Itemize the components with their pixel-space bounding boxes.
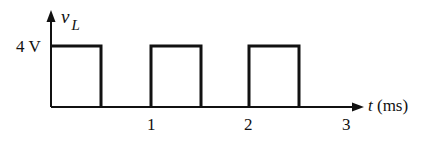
level-label-4v: 4 V	[16, 38, 41, 55]
y-symbol: v	[61, 6, 69, 27]
x-axis-arrow-icon	[352, 103, 364, 112]
x-unit: (ms)	[377, 96, 408, 115]
x-axis-label: t (ms)	[368, 97, 408, 114]
pulse-2	[151, 46, 201, 107]
y-subscript: L	[71, 17, 79, 33]
y-axis-label: vL	[61, 7, 78, 26]
y-axis-arrow-icon	[47, 10, 56, 22]
square-wave	[51, 46, 299, 107]
x-tick-2: 2	[244, 116, 253, 133]
pulse-1	[51, 46, 101, 107]
x-tick-3: 3	[342, 116, 351, 133]
x-symbol: t	[368, 96, 373, 115]
pulse-3	[249, 46, 299, 107]
x-tick-1: 1	[147, 116, 156, 133]
